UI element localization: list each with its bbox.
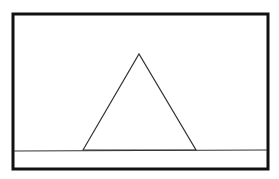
outer-frame bbox=[13, 14, 268, 169]
diagram-canvas bbox=[0, 0, 279, 179]
diagram-svg bbox=[0, 0, 279, 179]
triangle-shape bbox=[83, 54, 196, 150]
